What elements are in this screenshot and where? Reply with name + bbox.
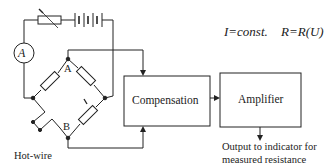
ammeter-label: A [18, 47, 25, 59]
output-label-line1: Output to indicator for [222, 142, 317, 153]
node-a-label: A [64, 64, 72, 75]
battery-icon [75, 13, 102, 27]
amplifier-label: Amplifier [238, 94, 283, 106]
equation-resistance: R=R(U) [281, 25, 324, 38]
supply-loop [14, 9, 113, 98]
node-b-label: B [63, 122, 70, 133]
equation-current: I=const. [224, 25, 268, 38]
output-label-line2: measured resistance [222, 155, 306, 166]
compensation-label: Compensation [132, 95, 198, 107]
hotwire-label: Hot-wire [14, 151, 52, 162]
